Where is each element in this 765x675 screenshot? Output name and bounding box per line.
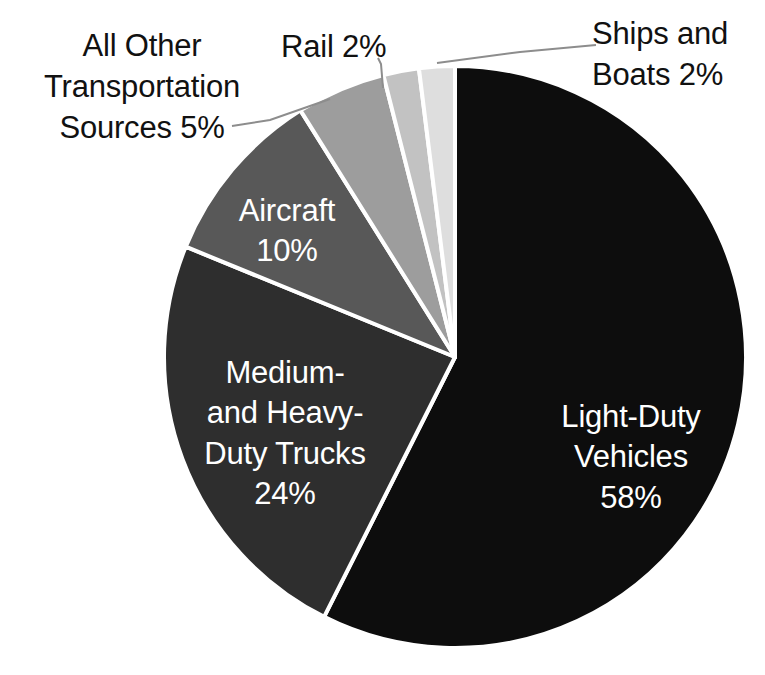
slice-label-rail: Rail 2% [281,27,401,68]
slice-label-all-other-transportation-sources: All Other Transportation Sources 5% [24,26,260,149]
slice-label-light-duty-vehicles: Light-Duty Vehicles 58% [541,397,721,518]
pie-chart: All Other Transportation Sources 5% Rail… [0,0,765,675]
slice-label-ships-and-boats: Ships and Boats 2% [592,14,762,96]
slice-label-medium-and-heavy-duty-trucks: Medium- and Heavy- Duty Trucks 24% [185,353,385,514]
slice-label-aircraft: Aircraft 10% [207,191,367,272]
